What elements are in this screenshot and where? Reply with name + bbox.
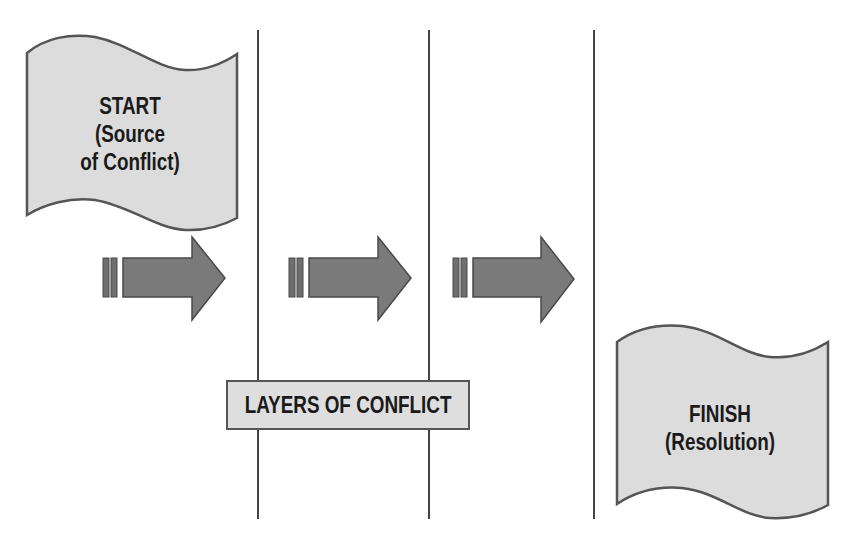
layers-of-conflict-label: LAYERS OF CONFLICT [245, 392, 452, 419]
finish-flag-label: FINISH (Resolution) [654, 400, 785, 456]
layers-of-conflict-box: LAYERS OF CONFLICT [226, 380, 470, 430]
arrow-3 [453, 237, 574, 322]
start-title: START [64, 92, 195, 120]
arrow-1 [103, 237, 225, 320]
diagram-canvas [0, 0, 853, 543]
start-flag-label: START (Source of Conflict) [64, 92, 195, 176]
finish-subtitle: (Resolution) [654, 428, 785, 456]
arrow-2 [289, 237, 411, 320]
finish-title: FINISH [654, 400, 785, 428]
start-subtitle-line-2: of Conflict) [64, 148, 195, 176]
start-subtitle-line-1: (Source [64, 120, 195, 148]
